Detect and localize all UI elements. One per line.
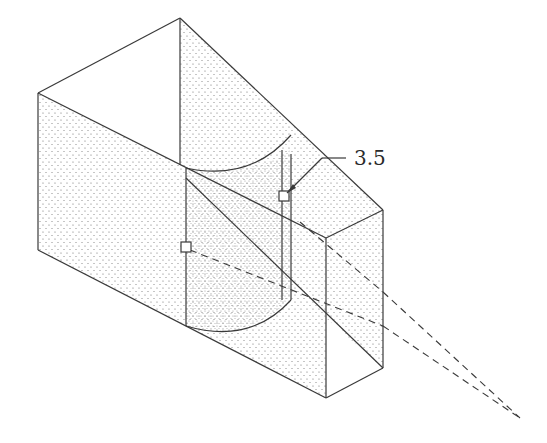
square-marker-left (181, 242, 191, 252)
technical-drawing: 3.5 (0, 0, 547, 443)
dimension-label: 3.5 (354, 146, 386, 170)
cylinder-interior (186, 150, 290, 332)
